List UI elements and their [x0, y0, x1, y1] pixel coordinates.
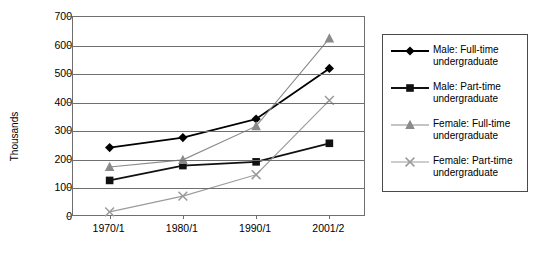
gridline [73, 74, 364, 75]
series-line [110, 143, 330, 180]
y-tick-label: 200 [10, 154, 72, 164]
x-tick-label: 2001/2 [293, 222, 363, 234]
y-tick-mark [66, 102, 71, 103]
legend-symbol-cross-icon [389, 156, 431, 168]
chart-container: Thousands 7006005004003002001000 1970/11… [0, 0, 534, 272]
series-2 [106, 139, 333, 184]
gridline [73, 160, 364, 161]
y-tick-mark [66, 187, 71, 188]
gridline [73, 46, 364, 47]
gridline [73, 103, 364, 104]
legend-label-2: Male: Part-timeundergraduate [431, 81, 501, 104]
x-tick-label: 1990/1 [220, 222, 290, 234]
y-tick-mark [66, 159, 71, 160]
legend-symbol-square-icon [389, 82, 431, 94]
legend-label-line1: Male: Full-time [433, 44, 499, 56]
x-tick-label: 1970/1 [74, 222, 144, 234]
x-tick-mark [110, 215, 111, 219]
legend-label-4: Female: Part-timeundergraduate [431, 155, 512, 178]
legend-label-1: Male: Full-timeundergraduate [431, 44, 499, 67]
series-4 [105, 96, 334, 216]
legend-item-2[interactable]: Male: Part-timeundergraduate [389, 81, 501, 104]
legend-label-line1: Female: Part-time [433, 155, 512, 167]
series-line [110, 68, 330, 147]
legend-label-line1: Male: Part-time [433, 81, 501, 93]
legend-label-3: Female: Full-timeundergraduate [431, 118, 510, 141]
data-point-marker [325, 33, 335, 42]
data-point-marker [406, 84, 414, 92]
data-point-marker [178, 192, 187, 201]
y-tick-mark [66, 73, 71, 74]
legend-label-line2: undergraduate [433, 130, 510, 142]
legend-label-line2: undergraduate [433, 56, 499, 68]
legend-label-line2: undergraduate [433, 167, 512, 179]
legend-label-line2: undergraduate [433, 93, 501, 105]
data-point-marker [405, 120, 415, 129]
data-point-marker [178, 133, 187, 142]
legend-symbol-triangle-icon [389, 119, 431, 131]
series-1 [105, 64, 334, 152]
series-line [110, 100, 330, 211]
legend-item-4[interactable]: Female: Part-timeundergraduate [389, 155, 512, 178]
y-tick-label: 0 [10, 211, 72, 221]
plot-area [72, 16, 365, 216]
y-tick-label: 700 [10, 11, 72, 21]
y-tick-mark [66, 16, 71, 17]
y-tick-label: 500 [10, 68, 72, 78]
data-point-marker [326, 139, 334, 147]
data-point-marker [106, 177, 114, 185]
x-tick-label: 1980/1 [147, 222, 217, 234]
y-tick-label: 400 [10, 97, 72, 107]
gridline [73, 131, 364, 132]
data-point-marker [252, 170, 261, 179]
data-point-marker [405, 46, 414, 55]
x-tick-mark [256, 215, 257, 219]
y-tick-mark [66, 216, 71, 217]
chart-legend: Male: Full-timeundergraduateMale: Part-t… [382, 34, 528, 192]
gridline [73, 188, 364, 189]
data-point-marker [105, 143, 114, 152]
y-tick-label: 300 [10, 125, 72, 135]
x-tick-mark [183, 215, 184, 219]
legend-item-1[interactable]: Male: Full-timeundergraduate [389, 44, 499, 67]
legend-item-3[interactable]: Female: Full-timeundergraduate [389, 118, 510, 141]
legend-symbol-diamond-icon [389, 45, 431, 57]
y-tick-label: 100 [10, 182, 72, 192]
y-tick-mark [66, 130, 71, 131]
y-tick-label: 600 [10, 40, 72, 50]
y-axis: 7006005004003002001000 [0, 0, 72, 272]
series-layer [73, 17, 366, 217]
x-tick-mark [329, 215, 330, 219]
y-tick-mark [66, 45, 71, 46]
legend-label-line1: Female: Full-time [433, 118, 510, 130]
